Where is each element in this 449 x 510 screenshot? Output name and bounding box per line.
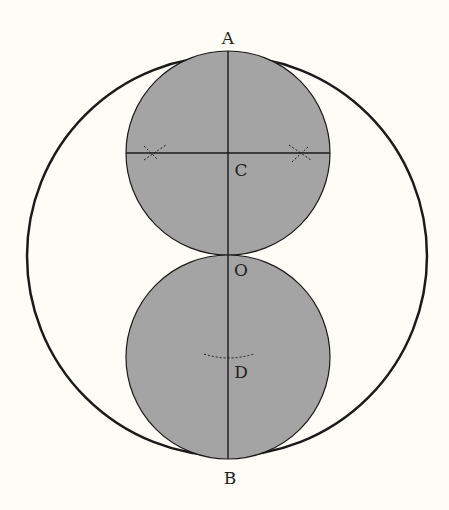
geometry-figure	[0, 0, 449, 510]
label-B: B	[224, 468, 237, 488]
diagram-canvas: A C O D B	[0, 0, 449, 510]
label-O: O	[234, 260, 248, 280]
label-A: A	[222, 28, 234, 48]
label-C: C	[234, 160, 247, 180]
label-D: D	[234, 362, 248, 382]
